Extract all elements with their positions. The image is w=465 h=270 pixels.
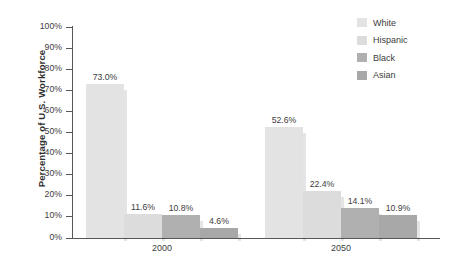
y-axis-tick-label: 10%: [45, 210, 62, 220]
legend-item[interactable]: Hispanic: [357, 32, 408, 50]
bar-value-label: 52.6%: [272, 115, 297, 125]
bar-fill: [200, 228, 238, 238]
y-axis-tick-label: 30%: [45, 168, 62, 178]
bar-value-label: 73.0%: [93, 72, 118, 82]
bar[interactable]: 4.6%: [200, 228, 238, 238]
bar-value-label: 14.1%: [348, 196, 373, 206]
y-axis-tick-label: 100%: [40, 21, 62, 31]
legend-label: Hispanic: [373, 35, 408, 45]
x-axis-label: 2050: [331, 243, 351, 253]
bar[interactable]: 10.8%: [162, 215, 200, 238]
legend-swatch-icon: [357, 71, 367, 80]
bar[interactable]: 10.9%: [379, 215, 417, 238]
bar-shadow: [238, 234, 241, 241]
legend-swatch-icon: [357, 53, 367, 62]
y-axis-tick-label: 50%: [45, 126, 62, 136]
bar-fill: [303, 191, 341, 238]
y-axis-tick-label: 40%: [45, 147, 62, 157]
legend-item[interactable]: Asian: [357, 67, 408, 85]
y-axis-tick-label: 80%: [45, 63, 62, 73]
bar-fill: [379, 215, 417, 238]
bar[interactable]: 11.6%: [124, 214, 162, 238]
legend-label: Black: [373, 53, 395, 63]
y-axis-tick-label: 20%: [45, 189, 62, 199]
legend-item[interactable]: Black: [357, 49, 408, 67]
bar-chart: Percentage of U.S. Workforce 0%10%20%30%…: [0, 0, 465, 270]
y-axis-tick-label: 0%: [49, 232, 62, 242]
bar-fill: [124, 214, 162, 238]
legend-swatch-icon: [357, 18, 367, 27]
bar-value-label: 11.6%: [131, 202, 155, 212]
bar[interactable]: 22.4%: [303, 191, 341, 238]
x-axis-label: 2000: [152, 243, 172, 253]
bar-value-label: 22.4%: [310, 179, 335, 189]
bar-value-label: 4.6%: [209, 216, 229, 226]
legend-item[interactable]: White: [357, 14, 408, 32]
y-axis-tick-label: 90%: [45, 42, 62, 52]
bar[interactable]: 73.0%: [86, 84, 124, 238]
legend-label: Asian: [373, 70, 396, 80]
bar-fill: [162, 215, 200, 238]
bar-value-label: 10.8%: [169, 203, 194, 213]
y-axis-tick-label: 60%: [45, 105, 62, 115]
bar-fill: [341, 208, 379, 238]
chart-legend: WhiteHispanicBlackAsian: [357, 14, 408, 84]
bar[interactable]: 14.1%: [341, 208, 379, 238]
y-axis-tick-label: 70%: [45, 84, 62, 94]
bar-value-label: 10.9%: [386, 203, 411, 213]
legend-swatch-icon: [357, 36, 367, 45]
bar-shadow: [417, 221, 420, 241]
bar-fill: [86, 84, 124, 238]
legend-label: White: [373, 18, 396, 28]
bar-fill: [265, 127, 303, 238]
bar[interactable]: 52.6%: [265, 127, 303, 238]
